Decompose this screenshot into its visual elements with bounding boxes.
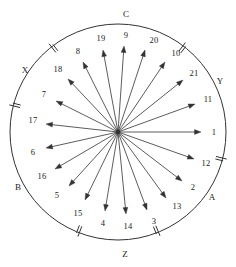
arrow-head-4: [104, 204, 109, 211]
arrow-16: [55, 132, 118, 169]
arrow-shaft-21: [118, 83, 180, 133]
arrow-label-20: 20: [150, 36, 159, 45]
arrow-head-1: [195, 130, 202, 135]
arrow-label-21: 21: [190, 69, 199, 78]
arrow-17: [46, 122, 118, 132]
arrow-head-10: [159, 62, 165, 69]
arrow-shaft-6: [50, 132, 118, 147]
sector-label-x: X: [22, 66, 29, 75]
arrow-1: [118, 130, 201, 135]
arrow-label-16: 16: [38, 172, 47, 181]
arrow-18: [68, 79, 118, 132]
arrow-label-3: 3: [152, 217, 156, 226]
arrow-label-14: 14: [124, 222, 133, 231]
arrow-head-19: [102, 50, 107, 57]
arrow-label-15: 15: [74, 209, 83, 218]
arrow-head-14: [123, 207, 128, 214]
arrow-shaft-20: [118, 54, 144, 132]
sector-label-b: B: [15, 183, 21, 192]
arrow-shaft-9: [118, 50, 124, 132]
arrow-shaft-12: [118, 132, 190, 158]
diagram-canvas: [0, 0, 236, 267]
arrow-label-17: 17: [29, 116, 38, 125]
arrow-shaft-18: [71, 82, 118, 132]
arrow-head-9: [121, 46, 126, 53]
sector-label-z: Z: [122, 250, 128, 259]
center-hub: [116, 130, 120, 134]
arrow-head-7: [56, 101, 63, 106]
arrow-label-7: 7: [42, 90, 46, 99]
arrow-head-20: [141, 50, 146, 57]
sector-label-a: A: [209, 193, 216, 202]
arrow-head-6: [46, 144, 53, 149]
tick-left: [9, 105, 20, 108]
arrow-shaft-11: [118, 105, 191, 132]
arrow-shaft-19: [104, 54, 118, 132]
arrow-shaft-13: [118, 132, 164, 195]
arrow-label-1: 1: [212, 128, 216, 137]
arrow-shaft-17: [50, 124, 118, 132]
arrow-label-19: 19: [97, 34, 106, 43]
arrow-12: [118, 132, 194, 159]
arrow-10: [118, 62, 165, 132]
arrow-label-6: 6: [31, 148, 35, 157]
arrow-20: [118, 50, 145, 132]
arrow-shaft-2: [118, 132, 179, 179]
arrow-shaft-3: [118, 132, 146, 206]
arrow-label-8: 8: [76, 47, 80, 56]
arrow-head-2: [175, 175, 182, 181]
arrow-shaft-16: [58, 132, 118, 167]
arrow-head-17: [46, 122, 53, 127]
arrow-15: [85, 132, 118, 200]
arrow-head-11: [188, 104, 195, 109]
arrow-head-12: [187, 155, 194, 160]
arrow-13: [118, 132, 166, 198]
arrow-label-4: 4: [101, 219, 105, 228]
arrow-head-15: [85, 193, 90, 200]
arrow-label-5: 5: [55, 191, 59, 200]
arrow-label-18: 18: [54, 65, 63, 74]
arrow-21: [118, 80, 183, 132]
arrow-label-9: 9: [124, 31, 128, 40]
arrow-shaft-8: [85, 66, 118, 132]
arrow-label-2: 2: [191, 183, 195, 192]
tick-right: [216, 156, 227, 159]
arrow-head-3: [142, 203, 147, 210]
arrow-2: [118, 132, 182, 181]
arrow-11: [118, 104, 195, 132]
arrow-label-11: 11: [204, 95, 213, 104]
arrow-head-21: [176, 80, 183, 86]
arrow-8: [83, 62, 118, 132]
arrow-shaft-14: [118, 132, 126, 210]
arrow-label-13: 13: [173, 202, 182, 211]
sector-label-c: C: [123, 10, 129, 19]
tick-lower-left-companion: [77, 225, 80, 232]
arrow-head-16: [55, 164, 62, 169]
arrow-head-13: [160, 191, 166, 198]
arrow-6: [46, 132, 118, 149]
arrow-4: [104, 132, 118, 211]
arrow-shaft-15: [87, 132, 118, 196]
tick-lower-right: [156, 226, 160, 236]
tick-lower-right-companion: [153, 227, 156, 234]
arrow-shaft-7: [60, 103, 118, 132]
arrow-3: [118, 132, 147, 210]
arrow-head-8: [83, 62, 88, 69]
arrow-7: [56, 101, 118, 132]
arrow-label-10: 10: [172, 49, 181, 58]
arrow-shaft-10: [118, 65, 163, 132]
arrow-19: [102, 50, 118, 132]
arrow-label-12: 12: [202, 159, 211, 168]
radial-vector-diagram: 111211020919818717616515414313212CYAZBX: [0, 0, 236, 267]
sector-label-y: Y: [217, 77, 224, 86]
